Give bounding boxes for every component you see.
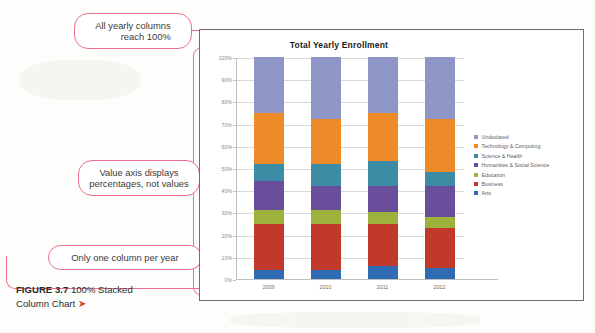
bar-column-2012[interactable]: 2012 bbox=[425, 57, 455, 279]
legend-item-label: Business bbox=[482, 181, 504, 187]
plot-area: 0%10%20%30%40%50%60%70%80%90%100%2009201… bbox=[236, 58, 464, 280]
bar-segment[interactable] bbox=[311, 57, 341, 119]
bar-column-2010[interactable]: 2010 bbox=[311, 57, 341, 279]
bar-segment[interactable] bbox=[254, 224, 284, 271]
y-axis-tick-mark bbox=[233, 58, 236, 59]
bar-segment[interactable] bbox=[425, 228, 455, 268]
x-axis-label-2011: 2011 bbox=[353, 284, 413, 290]
y-axis-tick-label: 70% bbox=[222, 122, 232, 128]
callout-one-column-per-year: Only one column per year bbox=[48, 245, 202, 270]
y-axis-tick-mark bbox=[233, 280, 236, 281]
legend-item-label: Education bbox=[482, 172, 506, 178]
legend-item[interactable]: Technology & Computing bbox=[474, 143, 582, 149]
x-axis-label-2009: 2009 bbox=[239, 284, 299, 290]
bar-segment[interactable] bbox=[368, 212, 398, 223]
y-axis-tick-mark bbox=[233, 213, 236, 214]
bar-segment[interactable] bbox=[311, 224, 341, 271]
y-axis-tick-label: 10% bbox=[222, 255, 232, 261]
caption-arrow-icon: ➤ bbox=[78, 298, 86, 309]
callout-value-axis-percentages: Value axis displayspercentages, not valu… bbox=[78, 160, 200, 196]
y-axis-tick-label: 50% bbox=[222, 166, 232, 172]
bar-segment[interactable] bbox=[425, 186, 455, 217]
bar-segment[interactable] bbox=[311, 119, 341, 163]
x-axis-label-2012: 2012 bbox=[410, 284, 470, 290]
legend-item[interactable]: Arts bbox=[474, 190, 582, 196]
bar-segment[interactable] bbox=[425, 268, 455, 279]
y-axis-tick-mark bbox=[233, 169, 236, 170]
bar-segment[interactable] bbox=[368, 113, 398, 162]
bar-segment[interactable] bbox=[368, 186, 398, 213]
callout-1-text: All yearly columnsreach 100% bbox=[88, 20, 178, 43]
legend-swatch-icon bbox=[474, 135, 478, 139]
legend-swatch-icon bbox=[474, 144, 478, 148]
y-axis-tick-label: 80% bbox=[222, 99, 232, 105]
legend-swatch-icon bbox=[474, 182, 478, 186]
bar-segment[interactable] bbox=[311, 164, 341, 186]
legend-item[interactable]: Business bbox=[474, 181, 582, 187]
legend-item-label: Undeclared bbox=[482, 134, 509, 140]
bar-segment[interactable] bbox=[368, 266, 398, 279]
legend-item[interactable]: Education bbox=[474, 172, 582, 178]
y-axis-tick-label: 60% bbox=[222, 144, 232, 150]
legend-swatch-icon bbox=[474, 191, 478, 195]
x-axis-label-2010: 2010 bbox=[296, 284, 356, 290]
bar-segment[interactable] bbox=[311, 186, 341, 210]
y-axis-tick-label: 0% bbox=[225, 277, 233, 283]
bar-segment[interactable] bbox=[254, 57, 284, 113]
bar-segment[interactable] bbox=[368, 161, 398, 185]
bar-segment[interactable] bbox=[425, 217, 455, 228]
bar-segment[interactable] bbox=[425, 172, 455, 185]
y-axis-tick-mark bbox=[233, 147, 236, 148]
callout-all-columns-100: All yearly columnsreach 100% bbox=[74, 13, 192, 49]
chart-title: Total Yearly Enrollment bbox=[200, 40, 478, 50]
bar-column-2009[interactable]: 2009 bbox=[254, 57, 284, 279]
chart-legend: UndeclaredTechnology & ComputingScience … bbox=[474, 134, 582, 200]
scan-artifact bbox=[230, 312, 480, 328]
legend-item[interactable]: Science & Health bbox=[474, 153, 582, 159]
y-axis-tick-label: 30% bbox=[222, 210, 232, 216]
y-axis-tick-mark bbox=[233, 236, 236, 237]
y-axis-tick-mark bbox=[233, 191, 236, 192]
caption-title-part2: Column Chart bbox=[16, 298, 75, 309]
y-axis-tick-label: 100% bbox=[219, 55, 232, 61]
y-axis-tick-mark bbox=[233, 80, 236, 81]
figure-caption: FIGURE 3.7 100% Stacked Column Chart ➤ bbox=[16, 284, 196, 311]
legend-item-label: Humanities & Social Science bbox=[482, 162, 550, 168]
bar-segment[interactable] bbox=[254, 270, 284, 279]
bar-segment[interactable] bbox=[311, 210, 341, 223]
legend-item[interactable]: Undeclared bbox=[474, 134, 582, 140]
y-axis-tick-label: 40% bbox=[222, 188, 232, 194]
bar-segment[interactable] bbox=[425, 57, 455, 119]
legend-item-label: Science & Health bbox=[482, 153, 523, 159]
bar-segment[interactable] bbox=[254, 113, 284, 164]
scan-artifact bbox=[20, 60, 140, 100]
bar-segment[interactable] bbox=[254, 210, 284, 223]
bar-segment[interactable] bbox=[311, 270, 341, 279]
y-axis-tick-mark bbox=[233, 258, 236, 259]
legend-swatch-icon bbox=[474, 173, 478, 177]
legend-swatch-icon bbox=[474, 163, 478, 167]
legend-item-label: Arts bbox=[482, 190, 491, 196]
y-axis-line bbox=[236, 58, 237, 280]
legend-swatch-icon bbox=[474, 154, 478, 158]
caption-figure-number: FIGURE 3.7 bbox=[16, 284, 68, 295]
x-axis-line bbox=[236, 279, 498, 280]
chart-container: Total Yearly Enrollment 0%10%20%30%40%50… bbox=[199, 29, 584, 301]
callout-2-text: Value axis displayspercentages, not valu… bbox=[89, 167, 189, 190]
legend-item-label: Technology & Computing bbox=[482, 143, 541, 149]
bar-segment[interactable] bbox=[425, 119, 455, 172]
bar-segment[interactable] bbox=[254, 181, 284, 210]
callout-3-text: Only one column per year bbox=[71, 252, 178, 263]
bar-segment[interactable] bbox=[368, 224, 398, 266]
caption-title-part1: 100% Stacked bbox=[71, 284, 133, 295]
bar-segment[interactable] bbox=[368, 57, 398, 113]
legend-item[interactable]: Humanities & Social Science bbox=[474, 162, 582, 168]
y-axis-tick-label: 90% bbox=[222, 77, 232, 83]
y-axis-tick-label: 20% bbox=[222, 233, 232, 239]
bar-segment[interactable] bbox=[254, 164, 284, 182]
y-axis-tick-mark bbox=[233, 102, 236, 103]
bar-column-2011[interactable]: 2011 bbox=[368, 57, 398, 279]
y-axis-tick-mark bbox=[233, 125, 236, 126]
